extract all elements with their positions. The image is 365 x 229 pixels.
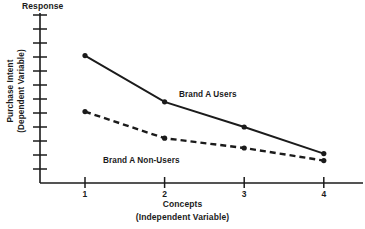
series-line-0 xyxy=(85,56,324,154)
chart-container: Response Purchase Intent (Dependent Vari… xyxy=(0,0,365,229)
series-label-brand-a-non-users: Brand A Non-Users xyxy=(103,156,180,165)
data-point xyxy=(321,151,326,156)
data-point xyxy=(162,99,167,104)
data-point xyxy=(321,158,326,163)
data-point xyxy=(162,136,167,141)
series-label-brand-a-users: Brand A Users xyxy=(179,90,237,99)
x-axis-title-line2: (Independent Variable) xyxy=(0,212,365,222)
series-line-1 xyxy=(85,112,324,161)
x-tick-label-2: 2 xyxy=(156,189,174,199)
plot-area xyxy=(0,0,365,229)
data-point xyxy=(82,109,87,114)
data-point xyxy=(242,145,247,150)
x-axis-title-line1: Concepts xyxy=(0,199,365,209)
data-point xyxy=(82,53,87,58)
data-series xyxy=(82,53,326,163)
x-tick-label-3: 3 xyxy=(235,189,253,199)
data-point xyxy=(242,124,247,129)
x-tick-label-1: 1 xyxy=(76,189,94,199)
x-tick-label-4: 4 xyxy=(315,189,333,199)
